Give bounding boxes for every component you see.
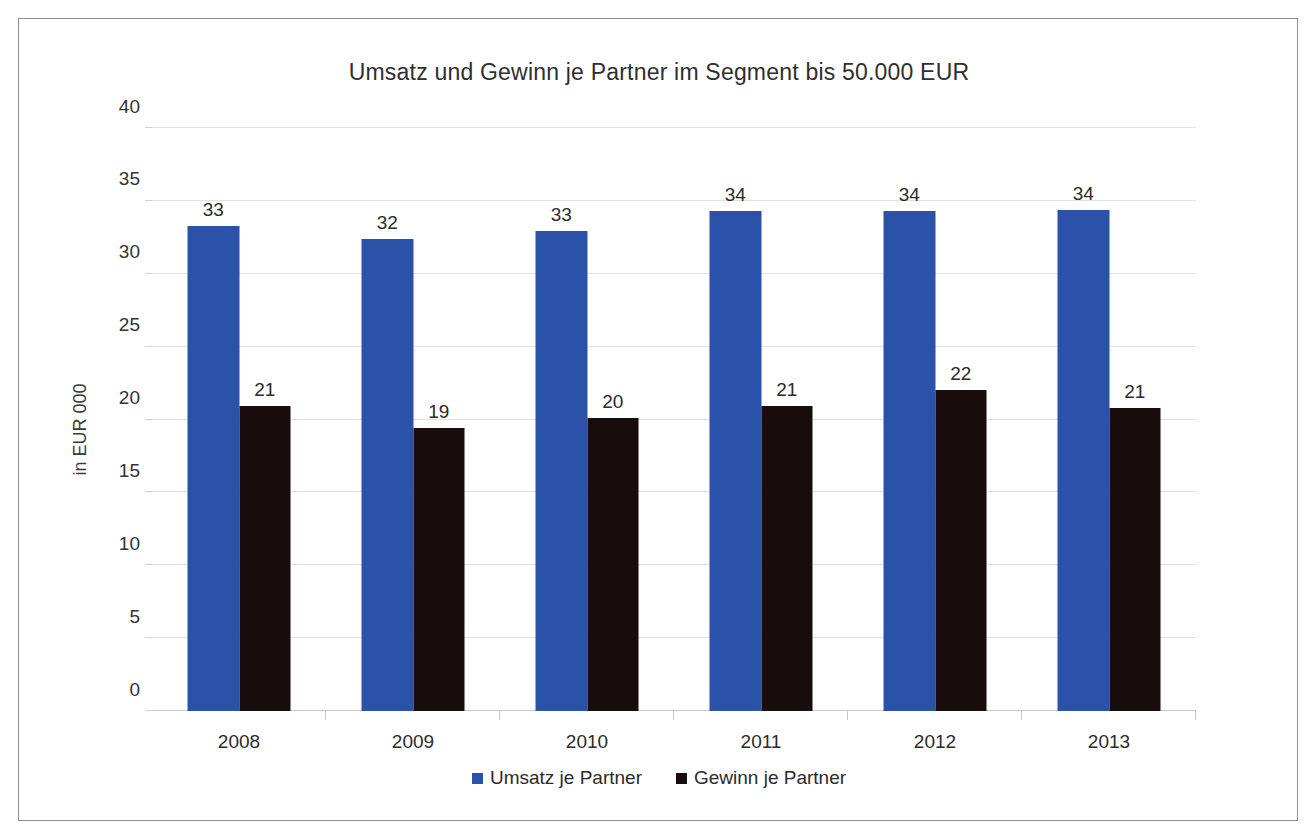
bar-pair: 3321 bbox=[188, 128, 291, 711]
bar-value-label: 21 bbox=[1124, 381, 1145, 403]
y-tick-mark bbox=[145, 419, 152, 420]
chart-legend: Umsatz je PartnerGewinn je Partner bbox=[19, 767, 1299, 789]
x-axis-category-label: 2010 bbox=[500, 731, 674, 753]
category-divider-tick bbox=[325, 711, 326, 720]
bar-value-label: 19 bbox=[428, 401, 449, 423]
bar-value-label: 34 bbox=[899, 184, 920, 206]
bar-umsatz[interactable]: 34 bbox=[710, 211, 762, 711]
y-tick-mark bbox=[145, 127, 152, 128]
bar-pair: 3422 bbox=[884, 128, 987, 711]
y-axis-title: in EUR 000 bbox=[70, 350, 91, 510]
bar-value-label: 33 bbox=[551, 204, 572, 226]
category-group: 33212008 bbox=[152, 128, 326, 711]
y-tick-label: 0 bbox=[129, 679, 140, 701]
legend-label: Gewinn je Partner bbox=[694, 767, 846, 789]
y-tick-label: 35 bbox=[119, 168, 140, 190]
chart-page-frame: Umsatz und Gewinn je Partner im Segment … bbox=[18, 18, 1298, 821]
y-tick-mark bbox=[145, 346, 152, 347]
y-tick-label: 25 bbox=[119, 314, 140, 336]
y-tick-mark bbox=[145, 710, 152, 711]
bar-pair: 3320 bbox=[536, 128, 639, 711]
bar-value-label: 34 bbox=[725, 184, 746, 206]
bars-layer: 3321200832192009332020103421201134222012… bbox=[152, 128, 1196, 711]
y-tick-mark bbox=[145, 273, 152, 274]
bar-gewinn[interactable]: 21 bbox=[761, 406, 813, 711]
category-group: 34212011 bbox=[674, 128, 848, 711]
bar-chart: Umsatz und Gewinn je Partner im Segment … bbox=[19, 19, 1299, 822]
y-tick-mark bbox=[145, 637, 152, 638]
bar-value-label: 21 bbox=[254, 379, 275, 401]
bar-value-label: 21 bbox=[776, 379, 797, 401]
category-group: 34212013 bbox=[1022, 128, 1196, 711]
bar-umsatz[interactable]: 34 bbox=[1058, 210, 1110, 711]
legend-item-umsatz[interactable]: Umsatz je Partner bbox=[472, 767, 642, 789]
x-axis-category-label: 2009 bbox=[326, 731, 500, 753]
legend-item-gewinn[interactable]: Gewinn je Partner bbox=[676, 767, 846, 789]
bar-value-label: 34 bbox=[1073, 183, 1094, 205]
category-group: 33202010 bbox=[500, 128, 674, 711]
bar-gewinn[interactable]: 19 bbox=[413, 428, 465, 711]
bar-gewinn[interactable]: 21 bbox=[239, 406, 291, 711]
y-tick-label: 10 bbox=[119, 533, 140, 555]
x-axis-category-label: 2008 bbox=[152, 731, 326, 753]
y-tick-label: 20 bbox=[119, 387, 140, 409]
category-divider-tick bbox=[673, 711, 674, 720]
bar-gewinn[interactable]: 20 bbox=[587, 418, 639, 711]
y-tick-label: 40 bbox=[119, 96, 140, 118]
legend-swatch-icon bbox=[676, 773, 687, 784]
y-tick-label: 30 bbox=[119, 241, 140, 263]
x-axis-category-label: 2012 bbox=[848, 731, 1022, 753]
bar-gewinn[interactable]: 21 bbox=[1109, 408, 1161, 711]
category-divider-tick bbox=[1021, 711, 1022, 720]
bar-pair: 3421 bbox=[710, 128, 813, 711]
plot-area: 0510152025303540 33212008321920093320201… bbox=[152, 128, 1196, 711]
bar-value-label: 32 bbox=[377, 212, 398, 234]
bar-gewinn[interactable]: 22 bbox=[935, 390, 987, 711]
y-tick-mark bbox=[145, 491, 152, 492]
y-tick-label: 5 bbox=[129, 606, 140, 628]
y-tick-mark bbox=[145, 200, 152, 201]
bar-umsatz[interactable]: 33 bbox=[536, 231, 588, 711]
category-divider-tick bbox=[499, 711, 500, 720]
x-axis-category-label: 2013 bbox=[1022, 731, 1196, 753]
bar-value-label: 33 bbox=[203, 199, 224, 221]
bar-pair: 3421 bbox=[1058, 128, 1161, 711]
chart-title: Umsatz und Gewinn je Partner im Segment … bbox=[19, 59, 1299, 86]
legend-swatch-icon bbox=[472, 773, 483, 784]
bar-value-label: 22 bbox=[950, 363, 971, 385]
bar-pair: 3219 bbox=[362, 128, 465, 711]
bar-umsatz[interactable]: 34 bbox=[884, 211, 936, 711]
bar-umsatz[interactable]: 32 bbox=[362, 239, 414, 711]
legend-label: Umsatz je Partner bbox=[490, 767, 642, 789]
category-divider-tick bbox=[1195, 711, 1196, 720]
category-group: 34222012 bbox=[848, 128, 1022, 711]
bar-umsatz[interactable]: 33 bbox=[188, 226, 240, 711]
y-tick-label: 15 bbox=[119, 460, 140, 482]
bar-value-label: 20 bbox=[602, 391, 623, 413]
category-divider-tick bbox=[847, 711, 848, 720]
y-tick-mark bbox=[145, 564, 152, 565]
category-group: 32192009 bbox=[326, 128, 500, 711]
x-axis-category-label: 2011 bbox=[674, 731, 848, 753]
